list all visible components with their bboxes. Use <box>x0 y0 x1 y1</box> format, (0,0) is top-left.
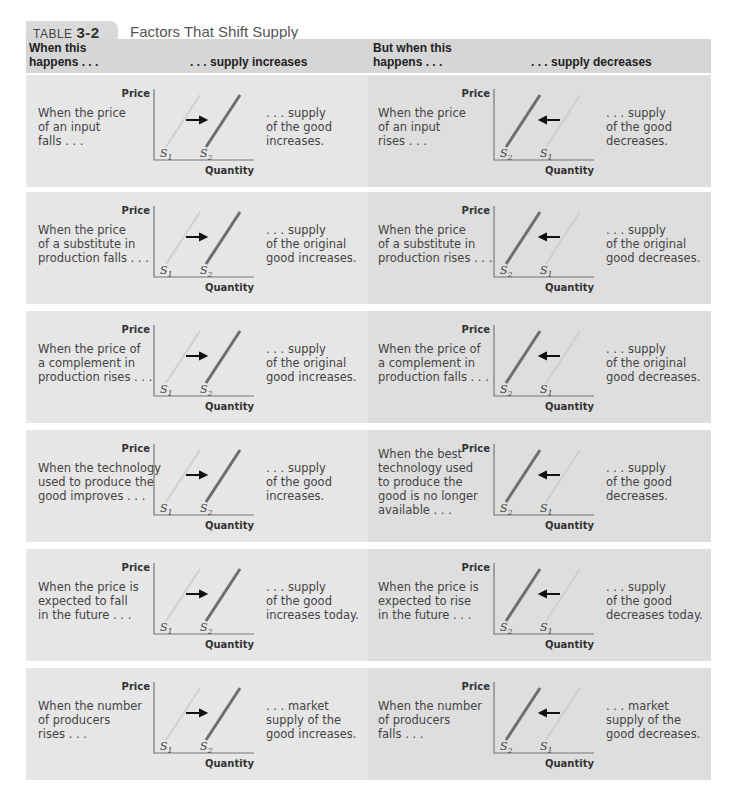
supply-increase-graph: PriceQuantityS1S2 <box>114 678 254 774</box>
arrow-left-icon <box>540 353 560 359</box>
x-axis-label: Quantity <box>205 520 254 531</box>
curve-label-s1: S1 <box>160 740 173 755</box>
curve-label-s1: S1 <box>540 147 553 162</box>
text-line: good increases. <box>266 727 356 741</box>
text-line: rises . . . <box>378 134 466 148</box>
text-line: . . . supply <box>266 106 332 120</box>
supply-increase-graph: PriceQuantityS1S2 <box>114 440 254 536</box>
x-axis-label: Quantity <box>205 758 254 769</box>
x-axis-label: Quantity <box>545 758 594 769</box>
text-line: . . . market <box>606 699 700 713</box>
factor-row: When the technologyused to produce thego… <box>26 430 711 542</box>
y-axis-label: Price <box>462 562 491 573</box>
text-line: . . . supply <box>606 342 700 356</box>
curve-label-s2: S2 <box>500 621 513 636</box>
effect-text: . . . marketsupply of thegood increases. <box>266 699 356 741</box>
supply-decrease-cell: When the price isexpected to risein the … <box>368 549 711 661</box>
y-axis-label: Price <box>462 443 491 454</box>
effect-text: . . . supplyof the goodincreases. <box>266 461 332 503</box>
shifted-supply-curve <box>206 450 240 502</box>
header-right-cause: But when this happens . . . <box>373 41 452 69</box>
x-axis-label: Quantity <box>205 401 254 412</box>
effect-text: . . . marketsupply of thegood decreases. <box>606 699 700 741</box>
text-line: . . . supply <box>266 580 359 594</box>
curve-label-s1: S1 <box>540 502 553 517</box>
supply-decrease-cell: When the priceof an inputrises . . .Pric… <box>368 75 711 187</box>
supply-decrease-graph: PriceQuantityS2S1 <box>454 678 594 774</box>
text-line: When the price <box>378 106 466 120</box>
curve-label-s1: S1 <box>160 264 173 279</box>
text-line: of an input <box>38 120 126 134</box>
x-axis-label: Quantity <box>205 282 254 293</box>
y-axis-label: Price <box>462 324 491 335</box>
y-axis-label: Price <box>462 205 491 216</box>
arrow-right-icon <box>186 117 206 123</box>
effect-text: . . . supplyof the gooddecreases today. <box>606 580 703 622</box>
header-left-cause: When this happens . . . <box>29 41 98 69</box>
text-line: of an input <box>378 120 466 134</box>
x-axis-label: Quantity <box>545 165 594 176</box>
text-line: of the original <box>266 237 356 251</box>
supply-increase-graph: PriceQuantityS1S2 <box>114 321 254 417</box>
y-axis-label: Price <box>122 681 151 692</box>
shifted-supply-curve <box>506 212 540 264</box>
header-line: happens . . . <box>29 55 98 69</box>
supply-decrease-cell: When the priceof a substitute inproducti… <box>368 192 711 304</box>
effect-text: . . . supplyof the originalgood increase… <box>266 223 356 265</box>
arrow-right-icon <box>186 591 206 597</box>
y-axis-label: Price <box>122 324 151 335</box>
text-line: increases. <box>266 134 332 148</box>
cause-text: When the priceof an inputfalls . . . <box>38 106 126 148</box>
shifted-supply-curve <box>206 569 240 621</box>
text-line: of the good <box>606 475 672 489</box>
x-axis-label: Quantity <box>205 639 254 650</box>
factor-row: When the priceof a substitute inproducti… <box>26 192 711 304</box>
arrow-right-icon <box>186 710 206 716</box>
text-line: supply of the <box>266 713 356 727</box>
shifted-supply-curve <box>206 212 240 264</box>
x-axis-label: Quantity <box>545 520 594 531</box>
curve-label-s1: S1 <box>160 502 173 517</box>
curve-label-s2: S2 <box>500 147 513 162</box>
effect-text: . . . supplyof the originalgood increase… <box>266 342 356 384</box>
cause-text: When the priceof an inputrises . . . <box>378 106 466 148</box>
arrow-left-icon <box>540 591 560 597</box>
header-line: happens . . . <box>373 55 452 69</box>
text-line: of the original <box>266 356 356 370</box>
text-line: of the good <box>266 594 359 608</box>
supply-increase-graph: PriceQuantityS1S2 <box>114 85 254 181</box>
supply-decrease-graph: PriceQuantityS2S1 <box>454 202 594 298</box>
header-left-effect: . . . supply increases <box>190 55 307 69</box>
x-axis-label: Quantity <box>205 165 254 176</box>
shifted-supply-curve <box>206 331 240 383</box>
effect-text: . . . supplyof the originalgood decrease… <box>606 342 700 384</box>
curve-label-s1: S1 <box>160 383 173 398</box>
y-axis-label: Price <box>462 88 491 99</box>
supply-increase-cell: When the numberof producersrises . . .Pr… <box>26 668 368 780</box>
supply-increase-cell: When the technologyused to produce thego… <box>26 430 368 542</box>
text-line: good decreases. <box>606 727 700 741</box>
arrow-left-icon <box>540 234 560 240</box>
curve-label-s2: S2 <box>200 147 213 162</box>
arrow-left-icon <box>540 710 560 716</box>
shifted-supply-curve <box>506 450 540 502</box>
curve-label-s2: S2 <box>200 383 213 398</box>
x-axis-label: Quantity <box>545 639 594 650</box>
text-line: good decreases. <box>606 370 700 384</box>
text-line: good decreases. <box>606 251 700 265</box>
supply-decrease-graph: PriceQuantityS2S1 <box>454 559 594 655</box>
effect-text: . . . supplyof the goodincreases today. <box>266 580 359 622</box>
curve-label-s1: S1 <box>540 621 553 636</box>
shifted-supply-curve <box>506 331 540 383</box>
curve-label-s2: S2 <box>200 502 213 517</box>
text-line: decreases. <box>606 134 672 148</box>
text-line: supply of the <box>606 713 700 727</box>
factor-row: When the price isexpected to fallin the … <box>26 549 711 661</box>
text-line: . . . supply <box>266 342 356 356</box>
effect-text: . . . supplyof the goodincreases. <box>266 106 332 148</box>
text-line: decreases today. <box>606 608 703 622</box>
text-line: . . . market <box>266 699 356 713</box>
text-line: of the original <box>606 356 700 370</box>
text-line: good increases. <box>266 251 356 265</box>
supply-decrease-graph: PriceQuantityS2S1 <box>454 85 594 181</box>
